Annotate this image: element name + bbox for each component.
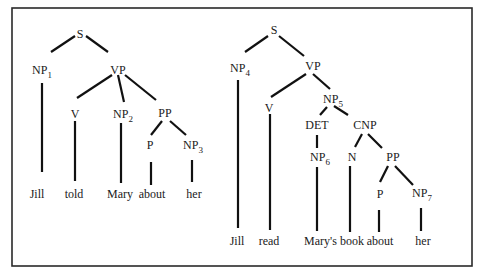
edge-np5-det [320,107,327,115]
node-np4: NP4 [230,61,250,78]
parse-tree-figure: S NP1 VP V NP2 PP P NP3 Jill told Mary a… [0,0,479,275]
edge-s-vp [279,36,304,56]
left-parse-tree: S NP1 VP V NP2 PP P NP3 Jill told Mary a… [30,27,204,201]
leaf-word: Jill [230,234,245,248]
leaf-word: read [259,234,280,248]
node-pp: PP [158,106,172,120]
edge-cnp-pp [368,134,382,148]
node-v: V [265,101,274,115]
leaf-word: told [65,187,84,201]
node-np3: NP3 [183,138,203,155]
edge-vp-pp [125,75,156,100]
edge-s-np1 [51,36,75,52]
leaf-word: Mary [107,187,133,201]
edge-pp-p [380,166,388,182]
edge-vp-v [77,75,112,98]
node-vp: VP [110,63,126,77]
leaf-word: her [186,187,201,201]
edge-s-vp [86,36,108,52]
edge-vp-np5 [313,74,330,89]
node-np1: NP1 [32,63,52,80]
node-s: S [271,23,278,37]
leaf-word: about [139,187,166,201]
leaf-word: her [415,234,430,248]
leaf-word: Mary's book [304,234,364,248]
node-np2: NP2 [113,107,133,124]
node-v: V [71,107,80,121]
edge-pp-np3 [170,121,186,135]
node-cnp: CNP [353,118,377,132]
node-n: N [348,150,357,164]
edge-pp-np7 [395,166,413,185]
figure-frame [12,8,472,266]
node-det: DET [305,118,329,132]
node-p: P [147,138,154,152]
leaf-word: about [367,234,394,248]
node-s: S [77,27,84,41]
node-np7: NP7 [412,186,432,203]
edge-pp-p [151,121,162,135]
leaf-word: Jill [30,187,45,201]
edge-cnp-n [355,134,362,147]
edge-vp-v [271,74,306,97]
edge-vp-np2 [118,75,124,102]
edge-s-np4 [245,36,268,52]
node-pp: PP [386,150,400,164]
node-p: P [377,187,384,201]
node-vp: VP [305,59,321,73]
right-parse-tree: S NP4 VP V NP5 DET CNP NP6 N PP P NP7 Ji… [230,23,433,248]
node-np6: NP6 [310,150,330,167]
